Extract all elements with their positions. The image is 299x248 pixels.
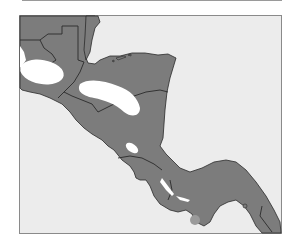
central-america-map xyxy=(0,0,299,248)
panama-island xyxy=(243,204,247,208)
offshore-island-dot xyxy=(190,215,200,225)
